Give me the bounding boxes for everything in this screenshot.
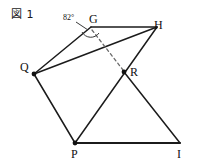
point-label-R: R <box>130 66 138 78</box>
angle-label-82: 82° <box>63 14 74 22</box>
segment-R-I <box>124 72 180 143</box>
solid-segments <box>34 27 180 143</box>
figure-caption: 図 1 <box>11 9 34 20</box>
point-label-G: G <box>89 13 98 25</box>
point-label-P: P <box>71 148 78 160</box>
figure-canvas <box>0 0 200 165</box>
point-label-Q: Q <box>20 61 29 73</box>
point-marker-P <box>73 141 78 146</box>
point-marker-Q <box>32 72 37 77</box>
segment-Q-H <box>34 27 157 74</box>
segment-Q-P <box>34 74 75 143</box>
point-markers <box>32 70 127 146</box>
point-label-I: I <box>177 148 181 160</box>
geometry-figure: 図 1 G H Q R P I 82° <box>0 0 200 165</box>
segment-P-H <box>75 27 157 143</box>
point-label-H: H <box>154 19 163 31</box>
segment-Q-G <box>34 27 91 74</box>
point-marker-R <box>122 70 127 75</box>
angle-pointer-at-G <box>76 22 88 30</box>
